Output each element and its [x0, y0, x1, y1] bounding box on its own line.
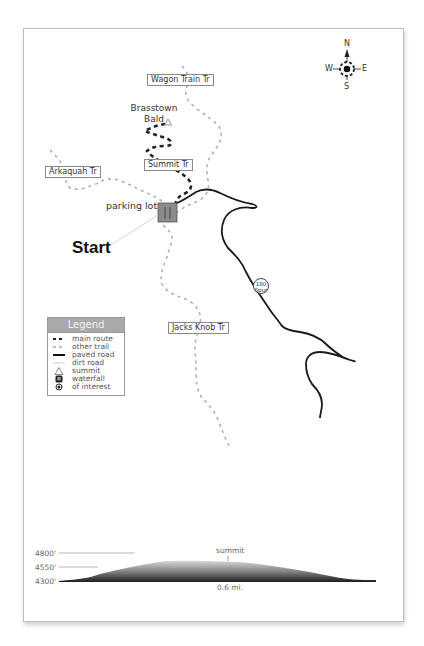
- trail-label-jacks-knob: Jacks Knob Tr: [168, 322, 229, 334]
- parking-lot-icon: [158, 203, 177, 222]
- peak-label-line2: Bald: [130, 114, 178, 125]
- compass-east-label: E: [362, 64, 367, 73]
- elevation-distance-label: 0.6 mi.: [217, 583, 243, 592]
- point-of-interest-icon: [52, 383, 66, 391]
- jacks-knob-trail: [161, 225, 230, 448]
- elevation-profile-chart: [59, 553, 376, 582]
- elevation-label-4800: 4800': [35, 549, 56, 558]
- main-route-icon: [52, 335, 66, 343]
- parking-lot-label: parking lot: [106, 200, 157, 211]
- start-label: Start: [72, 238, 111, 258]
- compass-south-label: S: [344, 82, 349, 91]
- start-pointer-line: [108, 215, 158, 247]
- compass-west-label: W: [325, 64, 333, 73]
- road-shield-suffix: Spur: [254, 287, 268, 293]
- compass-north-label: N: [344, 39, 350, 48]
- paved-road-180-spur: [177, 189, 355, 418]
- peak-label-line1: Brasstown: [130, 103, 178, 114]
- paved-road-icon: [52, 351, 66, 359]
- trail-label-wagon-train: Wagon Train Tr: [147, 74, 214, 86]
- legend-title: Legend: [48, 318, 124, 333]
- legend-item-of-interest: of interest: [48, 383, 124, 391]
- waterfall-icon: [52, 375, 66, 383]
- dirt-road-icon: [52, 359, 66, 367]
- wagon-train-trail: [168, 66, 221, 222]
- elevation-label-4550: 4550': [35, 563, 56, 572]
- map-legend: Legend main route other trail paved road…: [47, 317, 125, 396]
- elevation-summit-label: summit: [216, 546, 244, 555]
- peak-label: Brasstown Bald: [130, 103, 178, 125]
- summit-triangle-icon: [52, 367, 66, 375]
- other-trail-icon: [52, 343, 66, 351]
- compass-rose-icon: [333, 49, 361, 80]
- road-shield-180-spur: 180 Spur: [253, 278, 269, 294]
- trail-label-arkaquah: Arkaquah Tr: [45, 166, 101, 178]
- elevation-label-4300: 4300': [35, 577, 56, 586]
- trail-label-summit: Summit Tr: [144, 159, 193, 171]
